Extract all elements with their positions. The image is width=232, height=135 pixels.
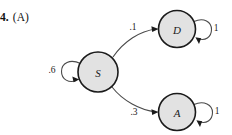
edge-s-to-a-weight: .3 bbox=[130, 107, 137, 117]
self-loop-d-arc bbox=[194, 20, 212, 40]
self-loop-a-arc bbox=[194, 103, 213, 123]
node-s[interactable]: S bbox=[78, 52, 118, 92]
node-a-label: A bbox=[173, 107, 181, 119]
state-diagram: .1 .3 .6 1 1 S bbox=[0, 0, 232, 135]
self-loop-s: .6 bbox=[48, 61, 80, 82]
node-d-label: D bbox=[172, 24, 181, 36]
edge-s-to-d-curve bbox=[113, 29, 156, 57]
figure-canvas: 4. (A) .1 .3 .6 1 bbox=[0, 0, 232, 135]
edge-s-to-a: .3 bbox=[112, 87, 159, 117]
self-loop-a: 1 bbox=[194, 103, 220, 127]
node-a[interactable]: A bbox=[159, 94, 196, 131]
edge-s-to-a-arrowhead bbox=[151, 109, 158, 115]
self-loop-d: 1 bbox=[194, 20, 219, 44]
edge-s-to-d: .1 bbox=[113, 22, 159, 57]
self-loop-d-arrowhead bbox=[195, 37, 201, 44]
self-loop-s-weight: .6 bbox=[48, 65, 55, 75]
edge-s-to-d-weight: .1 bbox=[129, 22, 136, 32]
self-loop-a-arrowhead bbox=[196, 120, 202, 127]
node-s-label: S bbox=[95, 67, 101, 79]
self-loop-d-weight: 1 bbox=[214, 23, 219, 33]
edge-s-to-d-arrowhead bbox=[151, 26, 158, 32]
self-loop-a-weight: 1 bbox=[215, 106, 220, 116]
node-d[interactable]: D bbox=[159, 11, 196, 48]
